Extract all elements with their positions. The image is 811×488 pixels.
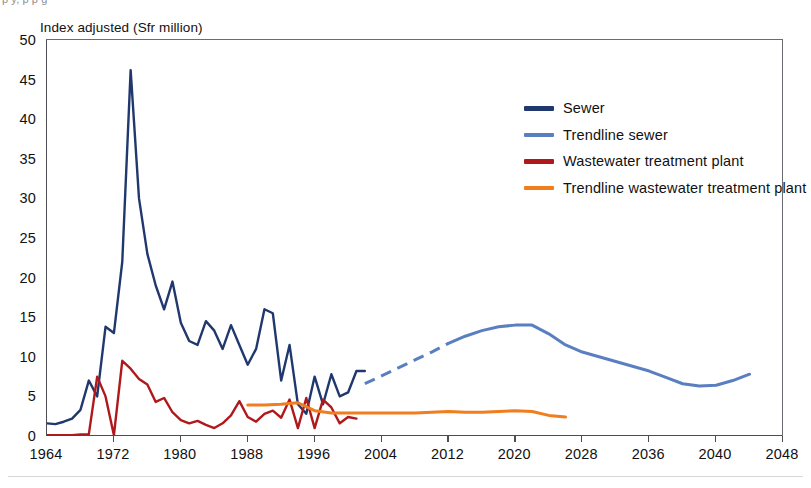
legend-item-label: Sewer	[563, 99, 605, 118]
x-tick-label: 2048	[765, 446, 798, 462]
legend-color-swatch	[524, 159, 554, 164]
y-tick-label: 0	[2, 428, 36, 444]
series-line-trendline-sewer-dashed	[365, 343, 449, 383]
legend-item[interactable]: Trendline sewer	[524, 126, 806, 145]
footer-divider	[8, 476, 803, 477]
chart-legend: SewerTrendline sewerWastewater treatment…	[524, 99, 806, 206]
series-line-sewer	[47, 70, 365, 424]
y-tick-label: 30	[2, 190, 36, 206]
x-tick-label: 2020	[498, 446, 531, 462]
series-line-trendline-sewer	[448, 325, 749, 386]
y-axis-title: Index adjusted (Sfr million)	[40, 20, 203, 35]
x-tick-label: 2004	[364, 446, 397, 462]
y-tick-label: 10	[2, 349, 36, 365]
legend-color-swatch	[524, 186, 554, 191]
x-tick-label: 2028	[565, 446, 598, 462]
x-tick-label: 1996	[297, 446, 330, 462]
plot-top-border	[46, 39, 783, 40]
y-tick-label: 15	[2, 309, 36, 325]
x-tick-mark	[447, 436, 448, 442]
legend-item[interactable]: Wastewater treatment plant	[524, 152, 806, 171]
x-tick-label: 2036	[632, 446, 665, 462]
legend-item[interactable]: Sewer	[524, 99, 806, 118]
y-tick-label: 45	[2, 72, 36, 88]
x-tick-mark	[381, 436, 382, 442]
series-line-trendline-wastewater-treatment-plant	[248, 403, 566, 417]
cutoff-header-text: p y, p p g	[2, 0, 47, 5]
legend-color-swatch	[524, 133, 554, 138]
x-tick-mark	[648, 436, 649, 442]
x-tick-label: 2012	[431, 446, 464, 462]
x-tick-mark	[180, 436, 181, 442]
x-tick-label: 1988	[230, 446, 263, 462]
y-tick-label: 25	[2, 230, 36, 246]
y-tick-label: 20	[2, 270, 36, 286]
x-tick-mark	[715, 436, 716, 442]
x-tick-label: 2040	[699, 446, 732, 462]
legend-item-label: Trendline sewer	[563, 126, 668, 145]
y-tick-label: 35	[2, 151, 36, 167]
legend-item-label: Wastewater treatment plant	[563, 152, 744, 171]
chart-figure: p y, p p g Index adjusted (Sfr million) …	[0, 0, 811, 488]
x-tick-mark	[581, 436, 582, 442]
x-tick-mark	[782, 436, 783, 442]
y-tick-label: 50	[2, 32, 36, 48]
x-tick-mark	[314, 436, 315, 442]
legend-item[interactable]: Trendline wastewater treatment plant	[524, 179, 806, 198]
x-tick-label: 1972	[96, 446, 129, 462]
y-tick-label: 40	[2, 111, 36, 127]
legend-color-swatch	[524, 106, 554, 111]
x-tick-mark	[113, 436, 114, 442]
x-tick-mark	[514, 436, 515, 442]
cutoff-header-strip: p y, p p g	[0, 0, 811, 14]
x-tick-mark	[247, 436, 248, 442]
x-tick-label: 1980	[163, 446, 196, 462]
x-tick-label: 1964	[29, 446, 62, 462]
y-tick-label: 5	[2, 388, 36, 404]
legend-item-label: Trendline wastewater treatment plant	[563, 179, 806, 198]
